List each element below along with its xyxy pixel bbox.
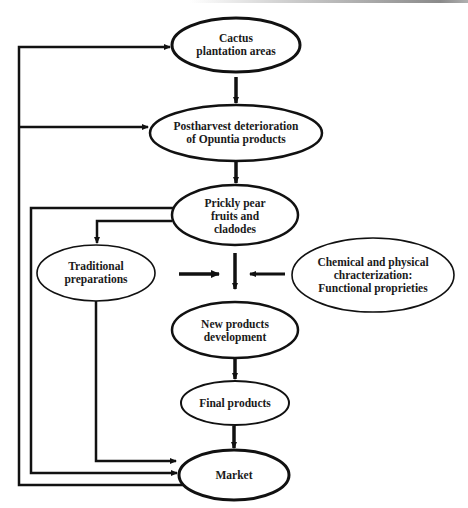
label-traditional-line1: Traditional (64, 260, 127, 273)
label-chemical: Chemical and physical chracterization: F… (317, 256, 428, 295)
label-prickly: Prickly pear fruits and cladodes (205, 197, 266, 236)
label-cactus: Cactus plantation areas (196, 32, 275, 58)
label-prickly-line1: Prickly pear (205, 197, 266, 210)
label-traditional-line2: preparations (64, 273, 127, 286)
edge-traditional-market (96, 301, 176, 461)
label-prickly-line3: cladodes (205, 223, 266, 236)
label-final: Final products (199, 397, 271, 410)
label-chemical-line2: chracterization: (317, 269, 428, 282)
label-cactus-line2: plantation areas (196, 45, 275, 58)
label-new-products: New products development (201, 318, 269, 344)
label-final-line1: Final products (199, 397, 271, 410)
edge-prickly-traditional (97, 221, 172, 243)
label-postharvest-line1: Postharvest deterioration (174, 120, 299, 133)
flowchart-canvas (0, 0, 468, 508)
label-new-products-line2: development (201, 331, 269, 344)
label-traditional: Traditional preparations (64, 260, 127, 286)
label-postharvest: Postharvest deterioration of Opuntia pro… (174, 120, 299, 146)
label-postharvest-line2: of Opuntia products (174, 133, 299, 146)
label-market-line1: Market (215, 469, 252, 482)
label-prickly-line2: fruits and (205, 210, 266, 223)
label-market: Market (215, 469, 252, 482)
label-cactus-line1: Cactus (196, 32, 275, 45)
label-chemical-line3: Functional proprieties (317, 282, 428, 295)
label-chemical-line1: Chemical and physical (317, 256, 428, 269)
label-new-products-line1: New products (201, 318, 269, 331)
